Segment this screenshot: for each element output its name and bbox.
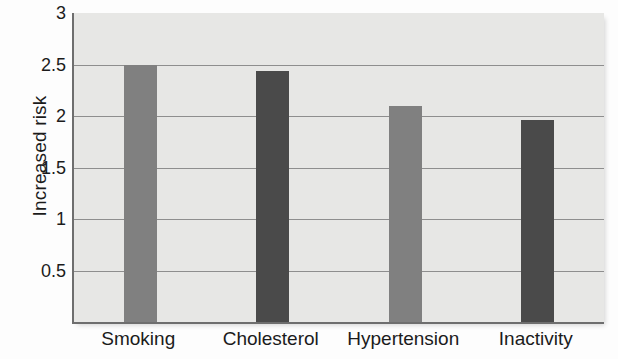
bar bbox=[256, 71, 289, 322]
x-axis-category-labels: SmokingCholesterolHypertensionInactivity bbox=[72, 328, 602, 356]
y-axis-tick-label: 2 bbox=[2, 106, 66, 127]
y-axis-tick-label: 1.5 bbox=[2, 157, 66, 178]
x-axis-category-label: Hypertension bbox=[347, 328, 459, 350]
bar bbox=[124, 65, 157, 323]
y-axis-tick-label: 2.5 bbox=[2, 54, 66, 75]
bar bbox=[389, 106, 422, 322]
bar-chart: Increased risk 0.511.522.53 SmokingChole… bbox=[0, 0, 618, 359]
plot-area bbox=[72, 13, 604, 324]
bars-layer bbox=[74, 13, 604, 322]
x-axis-category-label: Smoking bbox=[101, 328, 175, 350]
y-axis-tick-label: 3 bbox=[2, 3, 66, 24]
y-axis-tick-label: 0.5 bbox=[2, 260, 66, 281]
y-axis-tick-label: 1 bbox=[2, 209, 66, 230]
bar bbox=[521, 120, 554, 322]
x-axis-category-label: Cholesterol bbox=[223, 328, 319, 350]
x-axis-category-label: Inactivity bbox=[499, 328, 573, 350]
y-axis-tick-labels: 0.511.522.53 bbox=[0, 0, 66, 359]
